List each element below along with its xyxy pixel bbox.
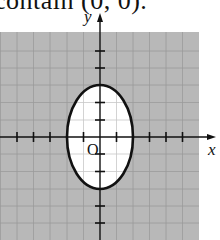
y-axis-label: y (82, 7, 92, 26)
ellipse-graph: x y O (0, 0, 220, 240)
y-axis-arrow-icon (97, 13, 103, 22)
x-axis-label: x (207, 140, 216, 159)
origin-label: O (87, 141, 99, 158)
